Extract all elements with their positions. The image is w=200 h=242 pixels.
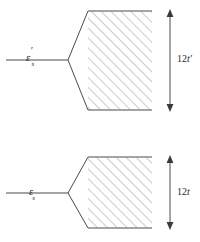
band-panel-bottom: εs 12t [0, 121, 200, 242]
energy-level-prime-top: ′ [30, 45, 32, 56]
band-panel-top: ε′s 12t′ [0, 0, 200, 121]
band-width-label-bottom: 12t [177, 187, 190, 197]
band-width-symbol-bottom: t [187, 186, 190, 197]
band-hatch-region-top [88, 11, 152, 110]
band-width-number-top: 12 [177, 53, 187, 64]
band-width-arrow-bottom [167, 155, 174, 230]
energy-level-subscript-top: s [32, 60, 35, 68]
band-width-arrow-top [167, 9, 174, 112]
band-hatch-region-bottom [88, 157, 152, 228]
band-width-label-top: 12t′ [177, 54, 192, 64]
band-width-prime-top: ′ [190, 53, 192, 64]
energy-level-subscript-bottom: s [32, 194, 35, 202]
fan-line-lower-top [68, 60, 88, 110]
energy-band-figure: ε′s 12t′ [0, 0, 200, 242]
fan-line-lower-bottom [68, 193, 88, 228]
fan-line-upper-top [68, 11, 88, 60]
energy-level-label-bottom: εs [29, 182, 36, 200]
fan-line-upper-bottom [68, 157, 88, 193]
band-width-number-bottom: 12 [177, 186, 187, 197]
energy-level-label-top: ε′s [26, 48, 35, 66]
